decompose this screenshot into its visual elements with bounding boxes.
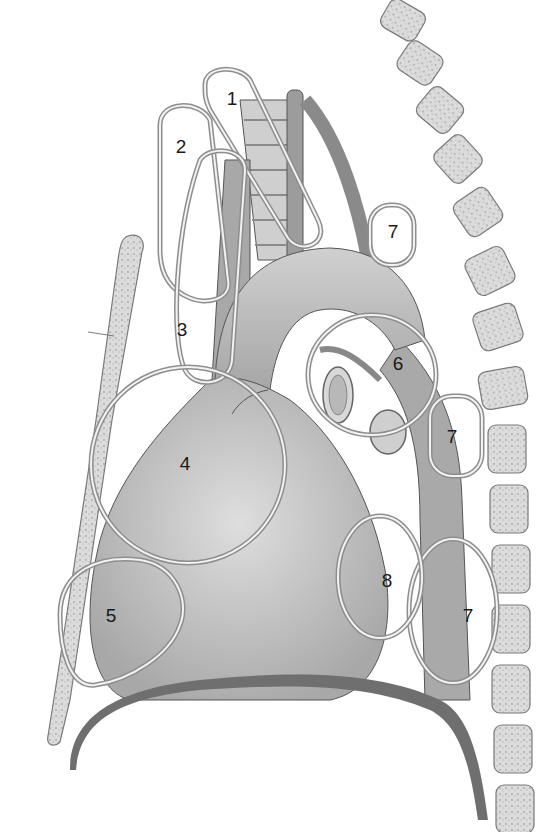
label-4: 4 bbox=[180, 453, 191, 474]
vertebral-column bbox=[378, 0, 553, 832]
label-7a: 7 bbox=[388, 221, 399, 242]
label-2: 2 bbox=[176, 136, 187, 157]
mediastinum-diagram: 1 2 3 4 5 6 7 7 7 8 bbox=[0, 0, 553, 832]
label-7c: 7 bbox=[463, 605, 474, 626]
heart bbox=[90, 378, 388, 700]
diagram-canvas: 1 2 3 4 5 6 7 7 7 8 bbox=[0, 0, 553, 832]
label-6: 6 bbox=[393, 353, 404, 374]
label-5: 5 bbox=[106, 605, 117, 626]
label-1: 1 bbox=[227, 88, 238, 109]
label-3: 3 bbox=[177, 319, 188, 340]
label-7b: 7 bbox=[447, 426, 458, 447]
label-8: 8 bbox=[382, 570, 393, 591]
